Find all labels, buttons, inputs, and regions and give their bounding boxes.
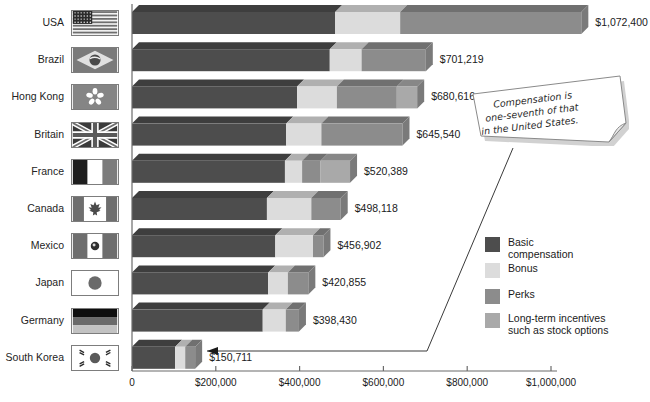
bar-segment xyxy=(175,347,185,369)
bar-segment-top xyxy=(337,79,404,86)
bar-segment-top xyxy=(132,154,292,161)
bar-segment xyxy=(311,198,340,220)
legend-label-line2: compensation xyxy=(508,248,573,260)
bar-segment xyxy=(313,235,323,257)
bar-segment-top xyxy=(267,191,318,198)
legend-label-line1: Bonus xyxy=(508,262,538,274)
bar-segment-top xyxy=(362,42,433,49)
bar-segment xyxy=(132,347,175,369)
callout-note: Compensation is one-seventh of that in t… xyxy=(469,74,629,146)
legend-label-line1: Perks xyxy=(508,288,535,300)
bar-segment xyxy=(268,272,288,294)
bar-segment-top xyxy=(321,117,409,124)
bar-segment xyxy=(302,161,320,183)
flag-france-icon xyxy=(71,159,119,185)
bar-segment xyxy=(285,161,302,183)
bar-segment-top xyxy=(335,5,407,12)
bar-segment-top xyxy=(400,5,588,12)
bar-segment xyxy=(132,161,285,183)
bar-value-label: $498,118 xyxy=(355,202,398,214)
bar-value-label: $398,430 xyxy=(313,314,357,326)
flag-usa-icon xyxy=(71,10,119,36)
bar-segment xyxy=(132,49,330,71)
country-label: Japan xyxy=(0,276,64,288)
legend-label: Long-term incentivessuch as stock option… xyxy=(508,312,608,336)
country-label: Mexico xyxy=(0,239,64,251)
flag-south-korea-icon xyxy=(71,345,119,371)
legend-label: Basiccompensation xyxy=(508,236,573,260)
bar-segment xyxy=(400,12,581,34)
bar-segment xyxy=(132,235,275,257)
legend-label: Bonus xyxy=(508,262,538,274)
x-axis-tick-label: $800,000 xyxy=(422,377,512,388)
legend-swatch xyxy=(485,263,500,278)
bar-segment xyxy=(132,310,263,332)
bar-value-label: $645,540 xyxy=(416,128,460,140)
flag-japan-icon xyxy=(71,270,119,296)
flag-brazil-icon xyxy=(71,47,119,73)
bar-value-label: $420,855 xyxy=(322,276,366,288)
bar-segment xyxy=(185,347,195,369)
legend-label-line1: Basic xyxy=(508,236,573,248)
bar-segment xyxy=(321,124,402,146)
bar-segment xyxy=(267,198,311,220)
legend-label: Perks xyxy=(508,288,535,300)
flag-hong-kong-icon xyxy=(71,84,119,110)
bar-segment xyxy=(132,86,297,108)
legend-label-line1: Long-term incentives xyxy=(508,312,608,324)
x-axis-tick-label: $1,000,000 xyxy=(506,377,596,388)
bar-segment-top xyxy=(132,42,337,49)
country-label: Britain xyxy=(0,128,64,140)
bar-segment xyxy=(297,86,337,108)
bar-segment-top xyxy=(132,340,182,347)
bar-segment xyxy=(132,272,268,294)
flag-mexico-icon xyxy=(71,233,119,259)
bar-segment-top xyxy=(297,79,344,86)
bar-segment xyxy=(275,235,313,257)
bar-segment xyxy=(321,161,350,183)
bar-segment xyxy=(263,310,286,332)
bar-segment-top xyxy=(132,265,275,272)
bar-segment xyxy=(330,49,362,71)
legend-swatch xyxy=(485,237,500,252)
bar-value-label: $150,711 xyxy=(209,351,252,363)
bar-segment-top xyxy=(286,117,328,124)
country-label: Hong Kong xyxy=(0,90,64,102)
x-axis-tick-label: $400,000 xyxy=(255,377,345,388)
country-label: Brazil xyxy=(0,53,64,65)
bar-value-label: $701,219 xyxy=(440,53,484,65)
flag-canada-icon xyxy=(71,196,119,222)
bar-segment xyxy=(132,198,267,220)
bar-segment-top xyxy=(132,79,304,86)
x-axis-tick-label: $600,000 xyxy=(338,377,428,388)
country-label: France xyxy=(0,165,64,177)
bar-segment-top xyxy=(275,228,320,235)
bar-value-label: $456,902 xyxy=(337,239,381,251)
bar-segment xyxy=(335,12,400,34)
bar-segment xyxy=(286,124,321,146)
bar-segment xyxy=(337,86,397,108)
legend-label-line2: such as stock options xyxy=(508,324,608,336)
bar-segment xyxy=(362,49,426,71)
x-axis-tick-label: $200,000 xyxy=(171,377,261,388)
flag-germany-icon xyxy=(71,308,119,334)
bar-segment-top xyxy=(132,5,342,12)
x-axis-tick-label: 0 xyxy=(87,377,177,388)
country-label: Germany xyxy=(0,314,64,326)
legend-swatch xyxy=(485,313,500,328)
bar-segment-top xyxy=(132,228,282,235)
country-label: USA xyxy=(0,16,64,28)
bar-segment xyxy=(132,124,286,146)
flag-britain-icon xyxy=(71,122,119,148)
bar-value-label: $1,072,400 xyxy=(595,16,648,28)
bar-segment xyxy=(132,12,335,34)
country-label: Canada xyxy=(0,202,64,214)
bar-segment xyxy=(286,310,299,332)
bar-segment xyxy=(397,86,417,108)
country-label: South Korea xyxy=(0,351,64,363)
bar-segment-top xyxy=(132,303,270,310)
bar-value-label: $520,389 xyxy=(364,165,408,177)
bar-segment-top xyxy=(132,117,293,124)
legend-swatch xyxy=(485,289,500,304)
bar-segment xyxy=(288,272,308,294)
